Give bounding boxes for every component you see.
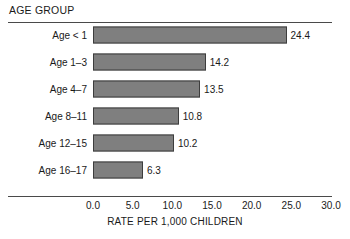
x-axis-title: RATE PER 1,000 CHILDREN: [0, 216, 350, 227]
bar: [93, 27, 287, 44]
bar: [93, 108, 179, 125]
bar-value-label: 10.8: [183, 111, 202, 122]
bar-value-label: 14.2: [210, 57, 229, 68]
bar-value-label: 13.5: [204, 84, 223, 95]
bar: [93, 54, 206, 71]
bar-chart: AGE GROUP Age < 124.4Age 1–314.2Age 4–71…: [0, 0, 350, 239]
category-label: Age 1–3: [0, 57, 87, 68]
plot-area: Age < 124.4Age 1–314.2Age 4–713.5Age 8–1…: [0, 26, 350, 194]
bar: [93, 162, 143, 179]
x-tick-label: 5.0: [113, 200, 153, 211]
bar-value-label: 24.4: [291, 30, 310, 41]
bar-row: Age 8–1110.8: [0, 107, 350, 125]
bar-row: Age < 124.4: [0, 26, 350, 44]
bar-value-label: 6.3: [147, 165, 161, 176]
x-tick-label: 0.0: [73, 200, 113, 211]
page-title: AGE GROUP: [9, 4, 74, 16]
category-label: Age 8–11: [0, 111, 87, 122]
x-tick-label: 15.0: [192, 200, 232, 211]
title-divider: [8, 22, 332, 23]
category-label: Age < 1: [0, 30, 87, 41]
bar-row: Age 12–1510.2: [0, 134, 350, 152]
category-label: Age 4–7: [0, 84, 87, 95]
bar: [93, 81, 200, 98]
bar: [93, 135, 174, 152]
bar-row: Age 4–713.5: [0, 80, 350, 98]
category-label: Age 12–15: [0, 138, 87, 149]
x-tick-label: 25.0: [271, 200, 311, 211]
bar-value-label: 10.2: [178, 138, 197, 149]
x-tick-label: 10.0: [152, 200, 192, 211]
category-label: Age 16–17: [0, 165, 87, 176]
x-tick-label: 30.0: [311, 200, 350, 211]
x-axis-line: [8, 196, 332, 197]
x-tick-label: 20.0: [232, 200, 272, 211]
bar-row: Age 1–314.2: [0, 53, 350, 71]
bar-row: Age 16–176.3: [0, 161, 350, 179]
